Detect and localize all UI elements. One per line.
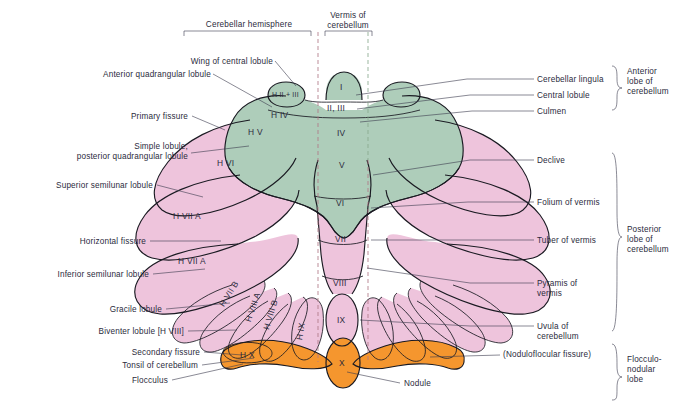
label-biventer-lobule: Biventer lobule [H VIII] [62, 327, 184, 337]
label-tonsil-of-cerebellum: Tonsil of cerebellum [82, 361, 198, 371]
hemisphere-segment-H-VIIA-inferior: H VII A [178, 256, 206, 266]
hemisphere-segment-H-V: H V [248, 127, 263, 137]
label-folium-of-vermis: Folium of vermis [537, 198, 647, 208]
label-gracile-lobule: Gracile lobule [78, 305, 162, 315]
vermis-segment-VIII: VIII [333, 278, 347, 288]
label-uvula-of-cerebellum: Uvula of cerebellum [537, 322, 647, 342]
label-anterior-lobe-of-cerebellum: Anterior lobe of cerebellum [627, 67, 685, 97]
hemisphere-segment-H-X: H X [240, 350, 255, 360]
vermis-segment-II-III: II, III [327, 103, 345, 113]
label-anterior-quadrangular-lobule: Anterior quadrangular lobule [35, 70, 211, 80]
vermis-segment-V: V [339, 160, 345, 170]
vermis-segment-I: I [340, 82, 343, 92]
label-culmen: Culmen [537, 107, 647, 117]
label-cerebellar-hemisphere: Cerebellar hemisphere [190, 20, 308, 30]
label-flocculus: Flocculus [112, 376, 168, 386]
label-pyramis-of-vermis: Pyramis of vermis [537, 279, 647, 299]
label-simple-lobule: Simple lobule, posterior quadrangular lo… [28, 142, 188, 162]
top-brackets [184, 31, 372, 36]
label-nodule: Nodule [404, 379, 464, 389]
hemisphere-segment-H-IV: H IV [271, 110, 288, 120]
hemisphere-segment-H-II-III: H II + III [272, 91, 299, 98]
vermis-segment-VII: VII [335, 234, 346, 244]
vermis-segment-IX: IX [337, 315, 345, 325]
label-primary-fissure: Primary fissure [60, 112, 188, 122]
hemisphere-segment-H-VI: H VI [217, 158, 234, 168]
hemisphere-segment-H-VIIA-superior: H VII A [173, 211, 201, 221]
label-wing-of-central-lobule: Wing of central lobule [95, 57, 273, 67]
label-noduloflocular-fissure: (Noduloflocular fissure) [503, 350, 633, 360]
vermis-segment-VI: VI [336, 198, 344, 208]
vermis-segment-IV: IV [337, 128, 345, 138]
label-flocculonodular-lobe: Flocculo- nodular lobe [627, 355, 685, 385]
label-horizontal-fissure: Horizontal fissure [38, 237, 146, 247]
label-superior-semilunar-lobule: Superior semilunar lobule [18, 181, 153, 191]
cerebellum-diagram-figure: .fillG { fill:#aecdba; } .fillP { fill:#… [0, 0, 685, 407]
label-posterior-lobe-of-cerebellum: Posterior lobe of cerebellum [627, 225, 685, 255]
label-declive: Declive [537, 156, 647, 166]
label-inferior-semilunar-lobule: Inferior semilunar lobule [18, 270, 149, 280]
vermis-segment-X: X [339, 358, 345, 368]
label-vermis-of-cerebellum: Vermis of cerebellum [312, 11, 384, 31]
label-secondary-fissure: Secondary fissure [94, 348, 200, 358]
